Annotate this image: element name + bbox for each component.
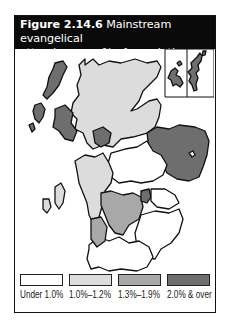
title-line-1: Figure 2.14.6 Mainstream evangelical bbox=[20, 18, 211, 46]
legend-swatch-2-0-over bbox=[167, 274, 210, 286]
legend-label-1-0-1-2: 1.0%–1.2% bbox=[69, 289, 111, 300]
legend-swatch-1-0-1-2 bbox=[69, 274, 112, 286]
legend-swatch-1-3-1-9 bbox=[118, 274, 161, 286]
legend-label-1-3-1-9: 1.3%–1.9% bbox=[118, 289, 160, 300]
region-central-east bbox=[141, 189, 151, 203]
choropleth-map bbox=[15, 49, 214, 274]
figure-number: Figure 2.14.6 bbox=[20, 18, 103, 31]
figure-header: Figure 2.14.6 Mainstream evangelical att… bbox=[15, 16, 215, 49]
legend-swatch-under-1-0 bbox=[20, 274, 63, 286]
region-central-white bbox=[151, 189, 179, 209]
legend: Under 1.0% 1.0%–1.2% 1.3%–1.9% 2.0% & ov… bbox=[18, 274, 214, 312]
figure-frame: Figure 2.14.6 Mainstream evangelical att… bbox=[14, 15, 216, 313]
legend-label-under-1-0: Under 1.0% bbox=[20, 289, 63, 300]
legend-label-2-0-over: 2.0% & over bbox=[167, 289, 212, 300]
